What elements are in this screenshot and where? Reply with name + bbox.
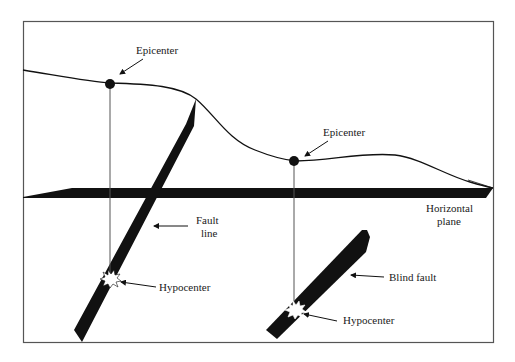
epicenter-dot-1: [105, 79, 115, 89]
fault-line-label-line2: line: [201, 227, 218, 239]
epicenter-arrow-2: [305, 141, 328, 156]
hypocenter-arrow-1: [121, 282, 156, 287]
epicenter-arrow-1: [120, 59, 143, 74]
horizontal-plane-label-line1: Horizontal: [426, 202, 473, 214]
fault-line-label-line1: Fault: [196, 214, 219, 226]
epicenter-label-1: Epicenter: [136, 44, 178, 56]
blind-fault-arrow: [351, 275, 384, 277]
horizontal-plane-label-line2: plane: [437, 215, 461, 227]
epicenter-label-2: Epicenter: [323, 126, 365, 138]
fault-plane: [74, 99, 196, 342]
horizontal-plane: [23, 188, 493, 198]
hypocenter-label-1: Hypocenter: [159, 281, 211, 293]
horizontal-plane-pointer: [468, 180, 493, 188]
epicenter-dot-2: [289, 156, 299, 166]
earthquake-fault-diagram: Epicenter Epicenter Fault line Hypocente…: [0, 0, 515, 362]
hypocenter-label-2: Hypocenter: [343, 314, 395, 326]
blind-fault-label: Blind fault: [389, 271, 436, 283]
ground-surface-line: [23, 70, 493, 188]
hypocenter-arrow-2: [304, 314, 337, 321]
